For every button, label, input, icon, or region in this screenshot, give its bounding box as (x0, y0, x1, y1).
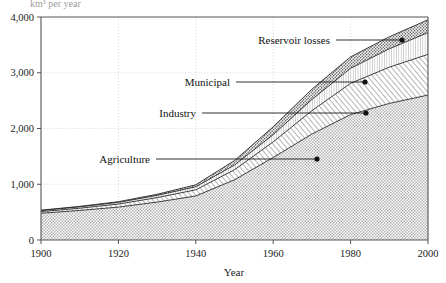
x-axis-ticks: 190019201940196019802000 (31, 240, 439, 259)
y-tick-label: 4,000 (10, 12, 34, 23)
stacked-areas (41, 20, 428, 240)
y-tick-label: 0 (29, 235, 34, 246)
unit-label: km³ per year (30, 0, 81, 9)
annotation-label-municipal: Municipal (185, 76, 230, 88)
x-tick-label: 1980 (340, 248, 361, 259)
y-tick-label: 3,000 (10, 67, 34, 78)
x-tick-label: 1920 (108, 248, 129, 259)
annotation-label-reservoir-losses: Reservoir losses (258, 34, 330, 46)
annotation-dot (362, 79, 367, 84)
unit-label-text: km³ per year (30, 0, 81, 9)
annotation-dot (363, 110, 368, 115)
y-tick-label: 2,000 (10, 123, 34, 134)
y-tick-label: 1,000 (10, 179, 34, 190)
annotation-dot (399, 37, 404, 42)
annotation-label-agriculture: Agriculture (99, 153, 150, 165)
x-tick-label: 1940 (185, 248, 206, 259)
water-use-area-chart: km³ per year 01,0002,0003,0004,000 19001… (0, 0, 446, 283)
x-axis-title: Year (224, 266, 245, 278)
x-tick-label: 2000 (418, 248, 439, 259)
x-tick-label: 1960 (263, 248, 284, 259)
x-tick-label: 1900 (31, 248, 52, 259)
annotation-label-industry: Industry (159, 107, 196, 119)
y-axis-ticks: 01,0002,0003,0004,000 (10, 12, 41, 246)
chart-canvas: km³ per year 01,0002,0003,0004,000 19001… (0, 0, 446, 283)
annotation-dot (314, 156, 319, 161)
